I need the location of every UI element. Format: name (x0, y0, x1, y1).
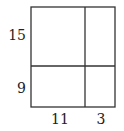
area-model-diagram: 15 9 11 3 (0, 0, 124, 131)
row-label-top: 15 (8, 27, 26, 43)
outer-rectangle (31, 7, 115, 107)
column-label-left: 11 (51, 111, 69, 127)
row-label-bottom: 9 (17, 80, 26, 96)
column-label-right: 3 (97, 111, 106, 127)
